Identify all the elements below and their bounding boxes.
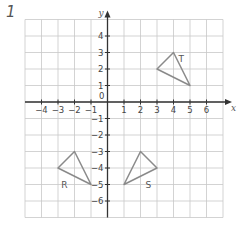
x-tick-label: −4 bbox=[35, 105, 48, 115]
y-axis-label: y bbox=[98, 8, 105, 18]
x-tick-label: 1 bbox=[121, 105, 126, 115]
y-tick-label: −5 bbox=[91, 180, 104, 190]
y-tick-label: 2 bbox=[98, 64, 103, 74]
x-tick-label: −3 bbox=[52, 105, 65, 115]
y-tick-label: 3 bbox=[98, 48, 103, 58]
origin-label: 0 bbox=[99, 91, 104, 101]
x-tick-label: 6 bbox=[204, 105, 209, 115]
grid-lines bbox=[25, 20, 223, 218]
triangle-label-s: S bbox=[145, 180, 151, 190]
x-axis-label: x bbox=[231, 103, 236, 113]
x-tick-label: 2 bbox=[138, 105, 143, 115]
x-tick-label: 4 bbox=[171, 105, 176, 115]
y-tick-label: −2 bbox=[91, 130, 104, 140]
triangle-label-t: T bbox=[177, 54, 184, 64]
x-tick-label: −2 bbox=[68, 105, 81, 115]
triangle-label-r: R bbox=[61, 180, 67, 190]
y-tick-label: −4 bbox=[91, 163, 104, 173]
coordinate-grid-diagram: xy −4−3−2−11234564321−1−2−3−4−5−60 TRS bbox=[0, 0, 238, 226]
x-tick-label: 3 bbox=[154, 105, 159, 115]
x-tick-label: 5 bbox=[187, 105, 192, 115]
y-tick-label: −3 bbox=[91, 147, 104, 157]
y-tick-label: 4 bbox=[98, 31, 103, 41]
y-tick-label: 1 bbox=[98, 81, 103, 91]
y-tick-label: −6 bbox=[91, 196, 104, 206]
y-tick-label: −1 bbox=[91, 114, 104, 124]
y-axis-arrow-icon bbox=[105, 11, 111, 18]
